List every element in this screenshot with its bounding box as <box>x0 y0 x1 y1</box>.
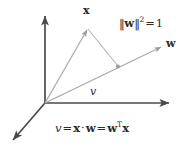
projection-equals-2: = <box>96 121 108 135</box>
projection-x: x <box>73 121 80 135</box>
projection-x-end: x <box>122 121 129 135</box>
x-vector-label: x <box>83 5 90 16</box>
vector-projection-diagram: x w v ‖w‖2=1 v=x·w=wTx <box>0 0 196 153</box>
projection-scalar-label: v <box>90 86 96 97</box>
projection-w: w <box>86 121 96 135</box>
norm-equation: ‖w‖2=1 <box>119 16 163 29</box>
w-vector-label: w <box>166 38 175 49</box>
norm-vector: w <box>124 16 134 30</box>
x-vector-arrow <box>45 30 87 103</box>
projection-equation: v=x·w=wTx <box>55 121 129 134</box>
projection-w-transpose: w <box>107 121 117 135</box>
vector-group <box>45 29 161 103</box>
norm-equals: = <box>144 16 156 30</box>
projection-scalar: v <box>55 121 62 135</box>
depth-axis <box>13 103 45 140</box>
projection-foot-point <box>116 65 120 69</box>
w-vector-arrow <box>45 47 161 103</box>
projection-drop-line <box>88 29 118 66</box>
norm-value: 1 <box>156 16 163 30</box>
projection-equals-1: = <box>62 121 74 135</box>
